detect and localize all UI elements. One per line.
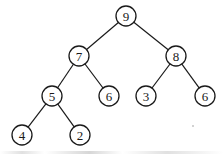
tree-node: 3 (136, 86, 156, 106)
scan-speck (192, 125, 194, 127)
node-label: 3 (143, 89, 150, 104)
tree-edge (152, 64, 170, 88)
node-label: 5 (49, 89, 56, 104)
tree-edge (134, 22, 168, 50)
tree-edge (58, 64, 74, 87)
node-label: 8 (173, 49, 180, 64)
tree-node: 2 (70, 125, 90, 145)
tree-node: 7 (69, 46, 89, 66)
tree-node: 6 (99, 86, 119, 106)
edges-layer (28, 22, 199, 127)
tree-node: 4 (12, 125, 32, 145)
tree-edge (28, 104, 46, 127)
node-label: 6 (202, 89, 209, 104)
node-label: 7 (76, 49, 83, 64)
node-label: 6 (106, 89, 113, 104)
tree-edge (58, 104, 74, 127)
node-label: 9 (123, 9, 130, 24)
tree-node: 5 (42, 86, 62, 106)
tree-edge (85, 64, 103, 88)
tree-diagram: 978563642 (0, 0, 223, 154)
node-label: 2 (77, 128, 84, 143)
cropped-text-strip (0, 151, 223, 154)
tree-edge (182, 64, 199, 88)
node-label: 4 (19, 128, 26, 143)
tree-node: 8 (166, 46, 186, 66)
tree-node: 9 (116, 6, 136, 26)
tree-edge (87, 22, 119, 49)
tree-node: 6 (195, 86, 215, 106)
